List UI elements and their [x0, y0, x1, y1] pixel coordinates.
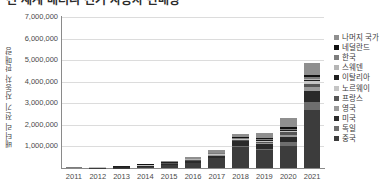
- x-tick-label: 2011: [62, 172, 86, 181]
- x-tick-label: 2017: [205, 172, 229, 181]
- legend-item-label: 미국: [342, 114, 356, 123]
- x-tick-label: 2015: [157, 172, 181, 181]
- x-tick-label: 2013: [110, 172, 134, 181]
- bar-group[interactable]: [280, 118, 297, 168]
- y-tick-label: 4,000,000: [4, 78, 58, 86]
- bar-segment[interactable]: [304, 102, 321, 110]
- bar-series-layer: [62, 17, 324, 168]
- legend-item[interactable]: 네덜란드: [334, 42, 392, 52]
- chart-container: 전 세계 배터리 전기 자동차 판매량 배터리 전기 자동차 판매량 7,000…: [0, 0, 392, 193]
- legend-swatch-icon: [334, 75, 339, 80]
- y-tick-label: 7,000,000: [4, 13, 58, 21]
- bar-segment[interactable]: [304, 91, 321, 102]
- legend-swatch-icon: [334, 45, 339, 50]
- bar-group[interactable]: [113, 166, 130, 168]
- x-tick-label: 2020: [276, 172, 300, 181]
- legend-swatch-icon: [334, 65, 339, 70]
- chart-legend: 나머지 국가네덜란드한국스웨덴이탈리아노르웨이프랑스영국미국독일중국: [334, 32, 392, 144]
- bar-group[interactable]: [304, 63, 321, 168]
- legend-item-label: 중국: [342, 134, 356, 143]
- legend-item-label: 스웨덴: [342, 63, 363, 72]
- y-axis-tick-labels: 7,000,0006,000,0005,000,0004,000,0003,00…: [0, 0, 58, 193]
- bar-segment[interactable]: [232, 147, 249, 168]
- x-tick-label: 2014: [133, 172, 157, 181]
- y-tick-label: 6,000,000: [4, 35, 58, 43]
- legend-item[interactable]: 노르웨이: [334, 83, 392, 93]
- bar-segment[interactable]: [280, 146, 297, 168]
- legend-item-label: 나머지 국가: [342, 33, 379, 42]
- legend-item[interactable]: 독일: [334, 124, 392, 134]
- legend-item[interactable]: 영국: [334, 103, 392, 113]
- bar-segment[interactable]: [304, 63, 321, 75]
- legend-swatch-icon: [334, 96, 339, 101]
- legend-item-label: 노르웨이: [342, 84, 370, 93]
- bar-segment[interactable]: [137, 167, 154, 168]
- bar-segment[interactable]: [304, 110, 321, 168]
- bar-group[interactable]: [232, 134, 249, 169]
- bar-group[interactable]: [256, 133, 273, 168]
- y-tick-label: 1,000,000: [4, 142, 58, 150]
- bar-segment[interactable]: [280, 118, 297, 127]
- x-tick-label: 2021: [300, 172, 324, 181]
- legend-item[interactable]: 한국: [334, 52, 392, 62]
- legend-item[interactable]: 프랑스: [334, 93, 392, 103]
- legend-item[interactable]: 중국: [334, 134, 392, 144]
- legend-item[interactable]: 스웨덴: [334, 63, 392, 73]
- bar-segment[interactable]: [185, 163, 202, 168]
- legend-item[interactable]: 이탈리아: [334, 73, 392, 83]
- legend-swatch-icon: [334, 136, 339, 141]
- bar-group[interactable]: [89, 167, 106, 168]
- bar-segment[interactable]: [208, 158, 225, 168]
- bar-group[interactable]: [208, 150, 225, 168]
- x-tick-label: 2012: [86, 172, 110, 181]
- bar-group[interactable]: [161, 160, 178, 168]
- x-tick-label: 2019: [253, 172, 277, 181]
- bar-group[interactable]: [185, 157, 202, 168]
- legend-item-label: 독일: [342, 124, 356, 133]
- legend-item-label: 네덜란드: [342, 43, 370, 52]
- legend-swatch-icon: [334, 35, 339, 40]
- y-tick-label: 3,000,000: [4, 99, 58, 107]
- bar-group[interactable]: [66, 167, 83, 168]
- chart-title-strip: 전 세계 배터리 전기 자동차 판매량: [0, 0, 392, 7]
- bar-segment[interactable]: [256, 150, 273, 168]
- legend-item-label: 한국: [342, 53, 356, 62]
- legend-item-label: 이탈리아: [342, 73, 370, 82]
- legend-item[interactable]: 미국: [334, 114, 392, 124]
- y-tick-label: 5,000,000: [4, 56, 58, 64]
- legend-swatch-icon: [334, 86, 339, 91]
- x-tick-label: 2018: [229, 172, 253, 181]
- legend-swatch-icon: [334, 116, 339, 121]
- x-tick-label: 2016: [181, 172, 205, 181]
- bar-segment[interactable]: [161, 165, 178, 168]
- bar-group[interactable]: [137, 164, 154, 168]
- legend-swatch-icon: [334, 126, 339, 131]
- legend-item-label: 프랑스: [342, 94, 363, 103]
- x-axis-line: [61, 168, 325, 169]
- legend-swatch-icon: [334, 55, 339, 60]
- legend-item[interactable]: 나머지 국가: [334, 32, 392, 42]
- y-tick-label: 2,000,000: [4, 121, 58, 129]
- legend-item-label: 영국: [342, 104, 356, 113]
- legend-swatch-icon: [334, 106, 339, 111]
